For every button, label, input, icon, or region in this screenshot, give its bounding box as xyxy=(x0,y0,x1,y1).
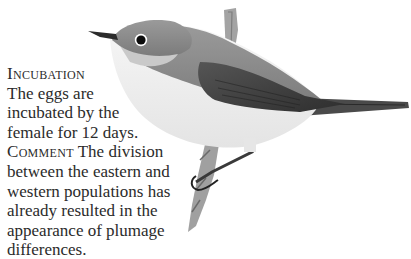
comment-line-2: western populations has xyxy=(7,182,217,202)
bird-beak xyxy=(88,31,118,40)
comment-line-5: differences. xyxy=(7,240,217,259)
comment-line-4: appearance of plumage xyxy=(7,221,217,241)
incubation-line-3: female for 12 days. xyxy=(7,123,217,143)
incubation-line-2: incubated by the xyxy=(7,103,217,123)
comment-line-1: between the eastern and xyxy=(7,162,217,182)
section-heading-incubation: Incubation xyxy=(7,64,217,84)
section-heading-comment: Comment xyxy=(7,142,74,161)
species-description: Incubation The eggs are incubated by the… xyxy=(7,64,217,259)
comment-first-line-rest: The division xyxy=(74,142,163,161)
bird-eye xyxy=(136,35,145,44)
incubation-line-1: The eggs are xyxy=(7,84,217,104)
comment-line-3: already resulted in the xyxy=(7,201,217,221)
comment-first-line: Comment The division xyxy=(7,142,217,162)
